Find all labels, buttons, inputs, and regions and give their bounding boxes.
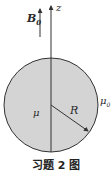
radius-label-text: R: [70, 104, 78, 117]
z-axis-label: z: [56, 3, 61, 13]
z-axis-label-text: z: [56, 2, 61, 13]
sphere-diagram: [0, 0, 112, 172]
outer-permeability-subscript: 0: [107, 101, 111, 108]
sphere-permeability-label: μ: [33, 108, 40, 118]
field-label-subscript: 0: [36, 18, 41, 27]
field-label-symbol: B: [27, 12, 36, 25]
outer-permeability-label: μ0: [100, 96, 110, 108]
radius-label: R: [70, 105, 78, 116]
sphere-permeability-text: μ: [33, 107, 40, 118]
field-label: B0: [27, 13, 41, 26]
figure-caption: 习题 2 图: [0, 160, 112, 171]
